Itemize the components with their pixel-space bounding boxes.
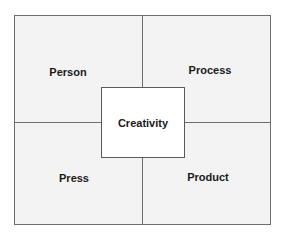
label-product: Product: [187, 171, 229, 183]
label-process: Process: [189, 64, 232, 76]
label-creativity: Creativity: [118, 117, 168, 129]
label-press: Press: [59, 172, 89, 184]
label-person: Person: [49, 66, 86, 78]
center-box-creativity: Creativity: [101, 87, 185, 158]
